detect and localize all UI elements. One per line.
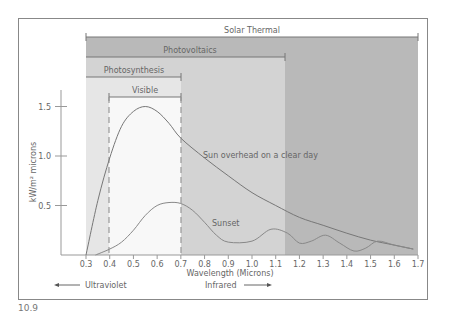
- x-tick-label: 1.1: [269, 260, 282, 269]
- chart-canvas: Solar Thermal Photovoltaics Photosynthes…: [0, 0, 450, 320]
- region-visible: [109, 97, 181, 255]
- label-visible: Visible: [132, 86, 158, 95]
- figure-number: 10.9: [18, 303, 38, 313]
- y-axis-label: kW/m² microns: [29, 142, 38, 202]
- x-tick-label: 0.4: [103, 260, 116, 269]
- x-axis-label: Wavelength (Microns): [186, 269, 273, 278]
- label-solar-thermal: Solar Thermal: [224, 26, 280, 35]
- x-tick-label: 1.0: [246, 260, 259, 269]
- x-tick-label: 0.5: [127, 260, 140, 269]
- annotation-clear-day: Sun overhead on a clear day: [203, 151, 318, 160]
- annotation-sunset: Sunset: [212, 219, 239, 228]
- label-photosynthesis: Photosynthesis: [104, 66, 164, 75]
- x-tick-label: 1.4: [340, 260, 353, 269]
- x-tick-label: 0.6: [151, 260, 164, 269]
- x-tick-label: 0.3: [80, 260, 93, 269]
- y-tick-label: 1.0: [38, 152, 51, 161]
- x-tick-label: 1.6: [388, 260, 401, 269]
- x-tick-label: 0.9: [222, 260, 235, 269]
- y-tick-label: 1.5: [38, 103, 51, 112]
- label-infrared: Infrared: [205, 281, 237, 290]
- label-photovoltaics: Photovoltaics: [163, 46, 217, 55]
- x-tick-label: 1.5: [364, 260, 377, 269]
- x-tick-label: 1.3: [317, 260, 330, 269]
- y-tick-label: 0.5: [38, 202, 51, 211]
- x-tick-label: 1.2: [293, 260, 306, 269]
- x-tick-label: 0.7: [174, 260, 187, 269]
- label-ultraviolet: Ultraviolet: [85, 281, 127, 290]
- x-tick-label: 0.8: [198, 260, 211, 269]
- x-tick-label: 1.7: [412, 260, 425, 269]
